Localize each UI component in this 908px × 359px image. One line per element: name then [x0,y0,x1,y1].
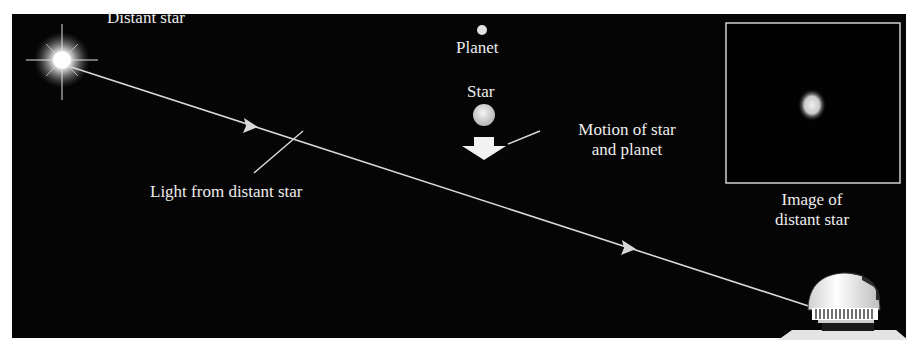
distant-star-icon [26,24,98,100]
motion-label-leader [508,131,540,144]
distant-star-label: Distant star [107,8,185,28]
light-label: Light from distant star [150,182,303,202]
ray-arrow-icon [621,240,636,255]
image-label-line2: distant star [745,210,879,230]
motion-arrow-icon [462,137,506,160]
star-label: Star [467,82,494,102]
distant-star-image [798,89,826,121]
image-label-line1: Image of [745,190,879,210]
microlensing-diagram [0,0,908,359]
light-label-leader [254,131,303,173]
motion-label-line1: Motion of star [552,120,702,140]
ray-arrow-icon [243,118,258,133]
lens-star-icon [473,104,495,126]
planet-label: Planet [456,38,499,58]
motion-label-line2: and planet [552,140,702,160]
telescope-icon [778,273,908,340]
planet-icon [477,25,487,35]
